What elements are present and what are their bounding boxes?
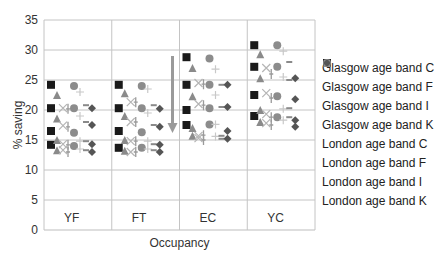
dash-marker-icon [83,104,89,106]
legend-item-london-i: London age band I [322,172,441,191]
dash-marker-icon [151,104,157,106]
legend-label: Glasgow age band F [322,80,433,94]
circle-marker-icon [206,54,214,62]
diamond-marker-icon [291,74,299,82]
x-axis-title: Occupancy [149,236,209,250]
y-tick-label: 15 [25,133,39,147]
y-tick-label: 25 [25,73,39,87]
x-marker-icon [195,100,203,108]
legend-item-london-c: London age band C [322,134,441,153]
x-marker-icon [127,137,135,145]
x-marker-icon [262,110,270,118]
circle-marker-icon [206,104,214,112]
square-marker-icon [183,53,191,61]
dash-marker-icon [151,149,157,151]
square-marker-icon [250,63,258,71]
circle-marker-icon [138,128,146,136]
legend-label: Glasgow age band I [322,99,429,113]
triangle-marker-icon [189,92,197,100]
dash-marker-icon [219,135,225,137]
dash-marker-icon [286,61,292,63]
diamond-marker-icon [156,141,164,149]
square-marker-icon [47,141,55,149]
square-marker-icon [115,144,123,152]
bar-marker-icon [66,122,70,132]
circle-marker-icon [70,104,78,112]
y-tick-label: 5 [31,193,38,207]
x-marker-icon [59,104,67,112]
plus-marker-icon [212,65,220,73]
legend-item-glasgow-c: Glasgow age band C [322,58,441,77]
diamond-marker-icon [156,105,164,113]
dash-marker-icon [286,79,292,81]
plus-marker-icon [212,91,220,99]
plus-marker-icon [212,132,220,140]
legend-item-glasgow-f: Glasgow age band F [322,77,441,96]
square-marker-icon [183,81,191,89]
legend-label: London age band C [322,137,427,151]
chart: 05101520253035YFFTECYCOccupancy% saving … [0,0,441,260]
circle-marker-icon [138,104,146,112]
group-label: YF [64,211,79,225]
circle-marker-icon [138,144,146,152]
diamond-marker-icon [88,104,96,112]
square-marker-icon [47,104,55,112]
x-marker-icon [262,89,270,97]
square-marker-icon [115,104,123,112]
plus-marker-icon [144,137,152,145]
triangle-marker-icon [53,91,61,99]
dash-marker-icon [286,107,292,109]
diamond-marker-icon [322,58,332,68]
plus-marker-icon [279,47,287,55]
diamond-marker-icon [224,81,232,89]
diamond-marker-icon [224,127,232,135]
y-tick-label: 20 [25,103,39,117]
dash-marker-icon [83,140,89,142]
legend-label: London age band K [322,194,427,208]
square-marker-icon [47,127,55,135]
legend-label: London age band I [322,175,422,189]
triangle-marker-icon [256,74,264,82]
diamond-marker-icon [156,148,164,156]
bar-marker-icon [202,100,206,110]
square-marker-icon [183,121,191,129]
square-marker-icon [115,81,123,89]
dash-marker-icon [151,124,157,126]
group-label: EC [200,211,217,225]
legend-label: London age band F [322,156,426,170]
legend-label: Glasgow age band K [322,118,433,132]
bar-marker-icon [269,69,273,79]
y-tick-label: 35 [25,13,39,27]
plus-marker-icon [76,112,84,120]
arrow-head-icon [168,123,178,133]
diamond-marker-icon [88,148,96,156]
legend-label: Glasgow age band C [322,61,434,75]
plus-marker-icon [212,120,220,128]
diamond-marker-icon [88,121,96,129]
group-label: YC [267,211,284,225]
x-marker-icon [262,119,270,127]
x-marker-icon [59,122,67,130]
legend-item-london-k: London age band K [322,191,441,210]
legend-item-glasgow-i: Glasgow age band I [322,96,441,115]
y-tick-label: 0 [31,223,38,237]
circle-marker-icon [273,41,281,49]
x-marker-icon [262,64,270,72]
square-marker-icon [183,106,191,114]
triangle-marker-icon [53,114,61,122]
group-label: FT [132,211,147,225]
legend-item-london-f: London age band F [322,153,441,172]
x-marker-icon [127,98,135,106]
square-marker-icon [47,81,55,89]
plus-marker-icon [279,105,287,113]
x-marker-icon [59,146,67,154]
x-marker-icon [127,148,135,156]
square-marker-icon [250,41,258,49]
dash-marker-icon [286,116,292,118]
legend-item-glasgow-k: Glasgow age band K [322,115,441,134]
dash-marker-icon [83,121,89,123]
diamond-marker-icon [88,140,96,148]
circle-marker-icon [70,129,78,137]
bar-marker-icon [269,93,273,103]
circle-marker-icon [273,92,281,100]
